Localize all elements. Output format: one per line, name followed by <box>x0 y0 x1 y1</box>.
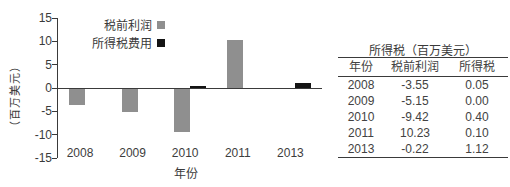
y-tick-label--5: -5 <box>24 104 52 118</box>
bar-series0-2010 <box>174 88 190 132</box>
y-tick-label-5: 5 <box>24 58 52 72</box>
table-cell-r3-c1: 10.23 <box>384 125 446 141</box>
table-row-2009: 2009-5.150.00 <box>338 93 508 109</box>
table-row-2011: 201110.230.10 <box>338 125 508 141</box>
table-title: 所得税（百万美元） <box>338 41 508 58</box>
y-tick-mark-5 <box>52 64 57 65</box>
table-row-2008: 2008-3.550.05 <box>338 77 508 94</box>
table-header-col2: 所得税 <box>446 58 508 77</box>
x-tick-label-2013: 2013 <box>268 146 312 160</box>
y-tick-label--10: -10 <box>24 128 52 142</box>
table-cell-r0-c1: -3.55 <box>384 77 446 94</box>
table-cell-r4-c2: 1.12 <box>446 141 508 158</box>
bar-series0-2008 <box>69 88 85 105</box>
y-tick-mark-10 <box>52 41 57 42</box>
table-cell-r0-c2: 0.05 <box>446 77 508 94</box>
y-tick-label-10: 10 <box>24 34 52 48</box>
y-tick-label-15: 15 <box>24 11 52 25</box>
bar-chart: （百万美元） 151050-5-10-15 税前利润所得税费用 20082009… <box>0 0 330 187</box>
table-cell-r1-c1: -5.15 <box>384 93 446 109</box>
table-cell-r2-c1: -9.42 <box>384 109 446 125</box>
x-tick-label-2008: 2008 <box>58 146 102 160</box>
table-cell-r4-c1: -0.22 <box>384 141 446 158</box>
legend-item-0: 税前利润 <box>70 17 165 32</box>
legend-swatch-icon-1 <box>157 39 165 47</box>
table-cell-r3-c0: 2011 <box>338 125 384 141</box>
table-cell-r2-c2: 0.40 <box>446 109 508 125</box>
table-cell-r2-c0: 2010 <box>338 109 384 125</box>
y-axis-label: （百万美元） <box>6 60 22 132</box>
x-axis-title: 年份 <box>164 164 208 181</box>
x-tick-label-2010: 2010 <box>163 146 207 160</box>
y-tick-label--15: -15 <box>24 151 52 165</box>
y-tick-mark-15 <box>52 18 57 19</box>
x-tick-label-2009: 2009 <box>111 146 155 160</box>
table-header-row: 年份税前利润所得税 <box>338 58 508 77</box>
table-header-col1: 税前利润 <box>384 58 446 77</box>
table-row-2013: 2013-0.221.12 <box>338 141 508 158</box>
legend-label-0: 税前利润 <box>104 16 152 33</box>
y-tick-label-0: 0 <box>24 81 52 95</box>
table-row-2010: 2010-9.420.40 <box>338 109 508 125</box>
y-tick-mark--15 <box>52 158 57 159</box>
legend-swatch-icon-0 <box>157 21 165 29</box>
table-cell-r1-c0: 2009 <box>338 93 384 109</box>
table-cell-r3-c2: 0.10 <box>446 125 508 141</box>
income-tax-table: 年份税前利润所得税 2008-3.550.052009-5.150.002010… <box>338 57 508 158</box>
y-tick-mark--5 <box>52 111 57 112</box>
income-tax-figure: （百万美元） 151050-5-10-15 税前利润所得税费用 20082009… <box>0 0 510 187</box>
legend-item-1: 所得税费用 <box>70 35 165 50</box>
zero-baseline <box>57 88 322 89</box>
table-header-col0: 年份 <box>338 58 384 77</box>
bar-series0-2009 <box>122 88 138 112</box>
legend-label-1: 所得税费用 <box>92 34 152 51</box>
table-cell-r0-c0: 2008 <box>338 77 384 94</box>
bar-series0-2011 <box>227 40 243 88</box>
x-tick-label-2011: 2011 <box>216 146 260 160</box>
table-cell-r4-c0: 2013 <box>338 141 384 158</box>
table-cell-r1-c2: 0.00 <box>446 93 508 109</box>
y-tick-mark--10 <box>52 134 57 135</box>
